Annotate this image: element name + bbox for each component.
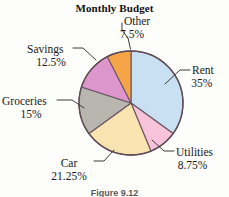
pie-label-other-name: Other <box>124 15 150 27</box>
pie-label-car-name: Car <box>61 157 78 169</box>
pie-label-rent: Rent 35% <box>192 64 214 89</box>
figure-container: Monthly Budget <box>0 0 229 197</box>
pie-label-utilities: Utilities 8.75% <box>176 146 213 171</box>
pie-label-rent-name: Rent <box>192 64 214 76</box>
pie-label-rent-percent: 35% <box>190 77 214 90</box>
pie-label-utilities-name: Utilities <box>176 146 213 158</box>
pie-label-car: Car 21.25% <box>46 157 92 182</box>
pie-label-groceries-percent: 15% <box>2 108 60 121</box>
figure-caption: Figure 9.12 <box>0 188 229 197</box>
pie-label-car-percent: 21.25% <box>46 170 92 183</box>
pie-label-savings: Savings 12.5% <box>27 43 75 68</box>
pie-label-utilities-percent: 8.75% <box>172 159 213 172</box>
pie-label-savings-percent: 12.5% <box>27 56 75 69</box>
pie-label-groceries-name: Groceries <box>2 95 47 107</box>
pie-label-groceries: Groceries 15% <box>2 95 60 120</box>
pie-label-other: Other 7.5% <box>124 15 150 40</box>
pie-label-savings-name: Savings <box>27 43 63 55</box>
pie-label-other-percent: 7.5% <box>114 28 150 41</box>
leader-line-savings <box>73 48 96 60</box>
